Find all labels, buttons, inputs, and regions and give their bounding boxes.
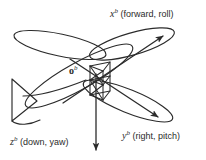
y-axis-arrow xyxy=(70,59,158,117)
fuselage xyxy=(19,35,139,118)
x-axis-label: xb (forward, roll) xyxy=(110,9,173,19)
z-axis-description: (down, yaw) xyxy=(17,137,68,147)
origin-label: ob xyxy=(69,66,78,76)
y-axis-description: (right, pitch) xyxy=(130,131,180,141)
body-frame-diagram: xb (forward, roll) yb (right, pitch) zb … xyxy=(0,0,206,160)
right-forward-wing xyxy=(87,21,178,66)
z-axis-label: zb (down, yaw) xyxy=(10,137,68,147)
origin-superscript: b xyxy=(74,64,78,72)
reference-cube xyxy=(90,62,110,100)
x-axis-description: (forward, roll) xyxy=(118,9,174,19)
y-axis-label: yb (right, pitch) xyxy=(122,131,180,141)
